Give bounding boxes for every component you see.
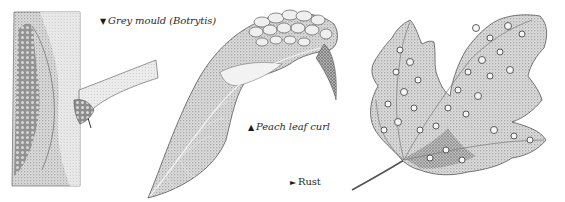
right-triangle-icon: ►	[290, 178, 296, 187]
illustration-plate: ▼Grey mould (Botrytis) ▲Peach leaf curl …	[0, 0, 565, 202]
caption-text: Peach leaf curl	[256, 121, 330, 132]
caption-rust: ►Rust	[290, 176, 321, 189]
down-triangle-icon: ▼	[100, 17, 106, 26]
caption-peach-leaf-curl: ▲Peach leaf curl	[248, 121, 330, 134]
caption-text: Grey mould (Botrytis)	[108, 15, 216, 26]
plate-illustrations	[0, 0, 565, 202]
peach-leaf-curl-illustration	[148, 10, 337, 198]
caption-text: Rust	[298, 176, 321, 187]
caption-grey-mould: ▼Grey mould (Botrytis)	[100, 15, 216, 28]
grey-mould-illustration	[12, 12, 158, 186]
rust-illustration	[352, 15, 547, 190]
up-triangle-icon: ▲	[248, 123, 254, 132]
